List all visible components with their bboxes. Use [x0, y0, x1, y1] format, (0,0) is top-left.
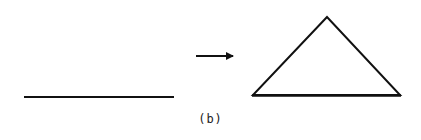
triangle [253, 17, 400, 95]
arrow-right-icon [196, 52, 234, 60]
figure-caption: (b) [0, 112, 421, 126]
